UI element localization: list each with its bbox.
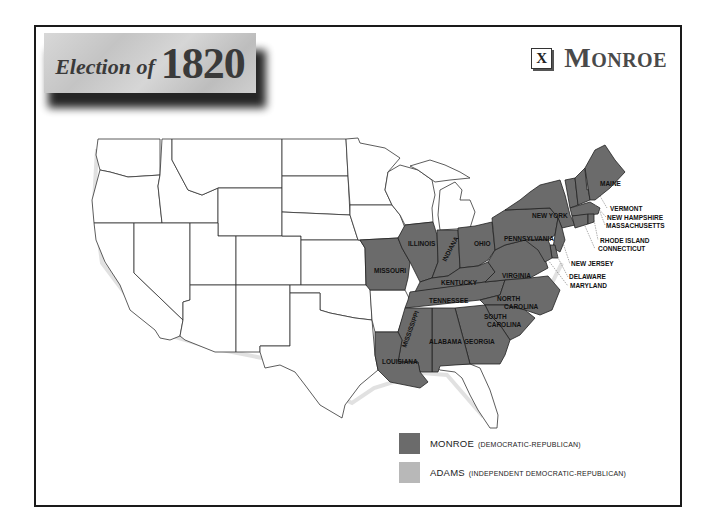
- label-north-carolina-1: NORTH: [497, 295, 520, 302]
- label-kentucky: KENTUCKY: [441, 279, 478, 286]
- legend-party: (DEMOCRATIC-REPUBLICAN): [478, 441, 581, 448]
- label-missouri: MISSOURI: [374, 267, 406, 274]
- label-north-carolina-2: CAROLINA: [504, 303, 539, 310]
- label-pennsylvania: PENNSYLVANIA: [504, 235, 554, 242]
- legend: MONROE(DEMOCRATIC-REPUBLICAN) ADAMS(INDE…: [399, 433, 626, 491]
- label-massachusetts: MASSACHUSETTS: [606, 222, 665, 229]
- label-georgia: GEORGIA: [464, 338, 495, 345]
- label-new-jersey: NEW JERSEY: [571, 260, 614, 267]
- legend-party: (INDEPENDENT DEMOCRATIC-REPUBLICAN): [469, 470, 626, 477]
- title-year: 1820: [161, 38, 245, 89]
- label-delaware: DELAWARE: [569, 273, 607, 280]
- monroe-swatch: [399, 433, 420, 454]
- winner-indicator: X Monroe: [531, 42, 667, 74]
- winner-name: Monroe: [564, 42, 667, 74]
- label-louisiana: LOUISIANA: [382, 358, 418, 365]
- adams-swatch: [399, 462, 420, 483]
- label-new-york: NEW YORK: [532, 212, 568, 219]
- legend-item-monroe: MONROE(DEMOCRATIC-REPUBLICAN): [399, 433, 626, 453]
- legend-candidate: ADAMS: [430, 467, 465, 478]
- label-vermont: VERMONT: [610, 205, 643, 212]
- label-connecticut: CONNECTICUT: [598, 245, 645, 252]
- label-rhode-island: RHODE ISLAND: [600, 237, 650, 244]
- title-banner: Election of 1820: [44, 33, 256, 93]
- title-prefix: Election of: [55, 54, 155, 80]
- label-illinois: ILLINOIS: [408, 240, 436, 247]
- label-ohio: OHIO: [474, 240, 491, 247]
- label-south-carolina-1: SOUTH: [484, 313, 507, 320]
- label-new-hampshire: NEW HAMPSHIRE: [607, 214, 664, 221]
- label-virginia: VIRGINIA: [502, 272, 531, 279]
- label-maine: MAINE: [600, 180, 622, 187]
- label-south-carolina-2: CAROLINA: [487, 321, 522, 328]
- label-maryland: MARYLAND: [570, 282, 607, 289]
- label-tennessee: TENNESSEE: [429, 297, 469, 304]
- legend-item-adams: ADAMS(INDEPENDENT DEMOCRATIC-REPUBLICAN): [399, 462, 626, 482]
- legend-candidate: MONROE: [430, 438, 474, 449]
- label-alabama: ALABAMA: [429, 338, 462, 345]
- winner-checkbox-icon: X: [531, 48, 552, 69]
